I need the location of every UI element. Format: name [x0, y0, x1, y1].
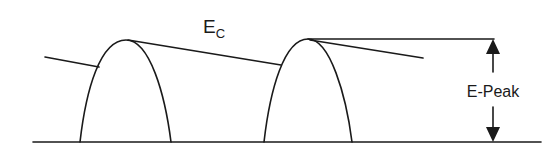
epeak-arrowhead-down-icon [486, 127, 500, 142]
left-pulse-arch [80, 40, 171, 142]
decay-line-right [310, 40, 423, 58]
epeak-label: E-Peak [467, 83, 520, 100]
ec-decay-line [128, 40, 281, 65]
ec-label: EC [203, 16, 225, 41]
right-pulse-arch [264, 39, 352, 142]
decay-line-left [45, 57, 99, 67]
rectified-waveform-diagram: EC E-Peak [0, 0, 555, 156]
epeak-arrowhead-up-icon [486, 39, 500, 54]
